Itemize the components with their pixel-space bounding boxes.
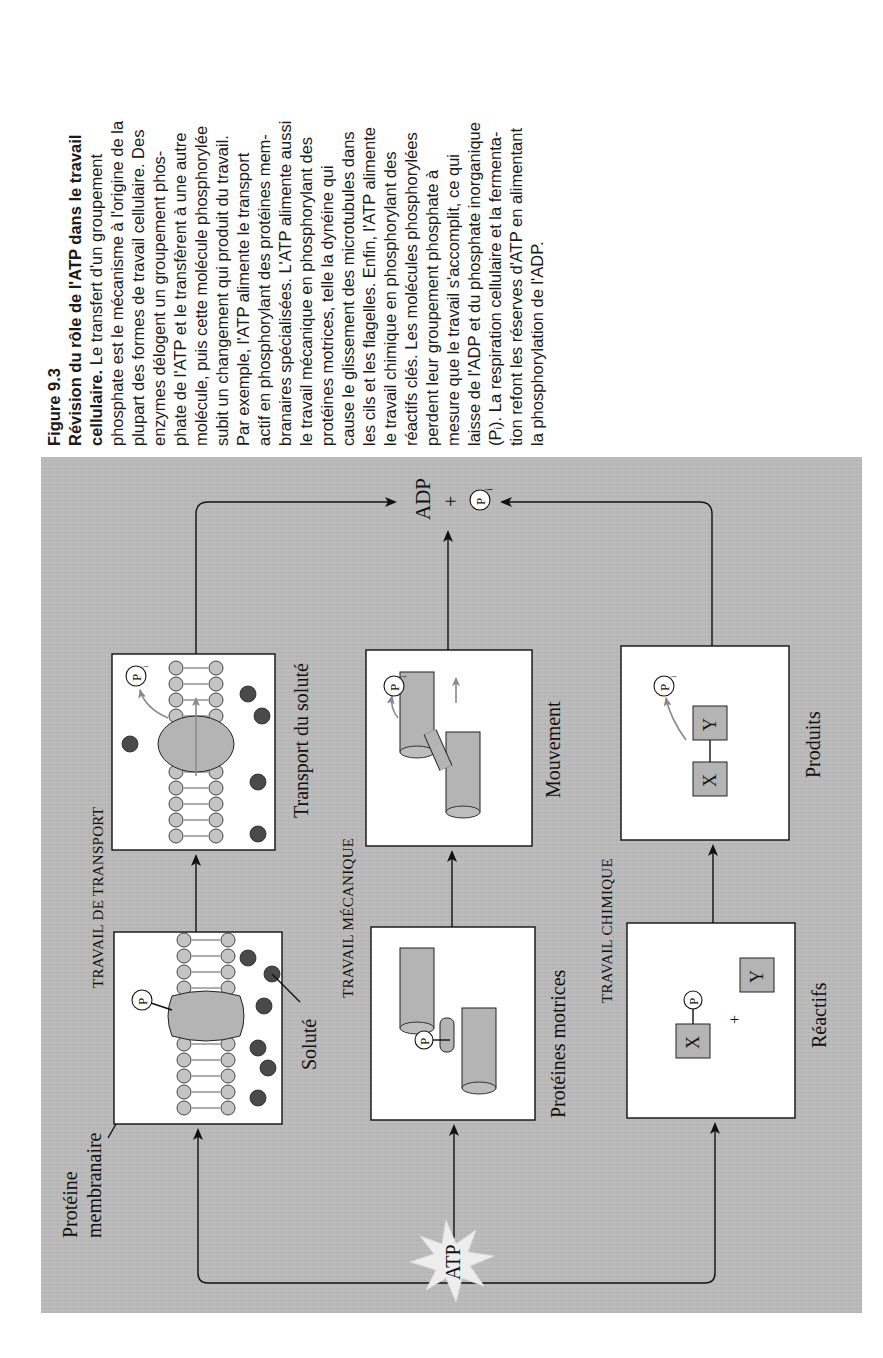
motor-proteins-label: Protéines motrices: [547, 969, 569, 1118]
svg-text:X: X: [700, 774, 720, 787]
svg-text:Y: Y: [747, 970, 767, 983]
caption-line: phate de l'ATP et le transfèrent à une a…: [171, 133, 189, 447]
svg-text:+: +: [726, 1015, 743, 1024]
solute-label: Soluté: [298, 1019, 320, 1070]
membrane-protein-shape: [168, 991, 244, 1041]
caption-line: phosphate est le mécanisme à l'origine d…: [108, 120, 126, 446]
caption-line: laisse de l'ADP et du phosphate inorgani…: [465, 122, 483, 446]
box-membrane-protein: P: [114, 932, 300, 1124]
pi-subscript: i: [483, 488, 494, 491]
svg-text:X: X: [683, 1036, 703, 1049]
caption-line: le travail chimique en phosphorylant des: [381, 152, 399, 446]
caption-line: tion refont les réserves d'ATP en alimen…: [507, 128, 525, 446]
svg-text:P: P: [657, 684, 672, 691]
caption-line: plupart des formes de travail cellulaire…: [129, 130, 147, 446]
movement-label: Mouvement: [542, 701, 564, 798]
membrane-protein-label-line1: Protéine: [59, 1171, 81, 1238]
svg-text:P: P: [387, 684, 402, 691]
box-solute-transport: P i: [112, 654, 275, 850]
pi-label: P: [473, 498, 488, 505]
caption-line: branaires spécialisées. L'ATP alimente a…: [276, 121, 294, 446]
solute-transport-label: Transport du soluté: [290, 663, 313, 818]
caption-line: molécule, puis cette molécule phosphoryl…: [192, 126, 210, 446]
caption-line: mesure que le travail s'accomplit, ce qu…: [444, 154, 462, 446]
box-products: X Y P i: [621, 646, 789, 840]
svg-text:P: P: [129, 674, 144, 681]
adp-label: ADP: [411, 478, 435, 520]
caption-line: la phosphorylation de l'ADP.: [528, 241, 546, 446]
phosphate-label: P: [135, 998, 150, 1005]
reactants-label: Réactifs: [808, 982, 830, 1048]
section-mechanical-label: TRAVAIL MÉCANIQUE: [340, 838, 356, 998]
svg-text:P: P: [417, 1038, 432, 1045]
section-chemical-label: TRAVAIL CHIMIQUE: [599, 858, 615, 1003]
box-motor-proteins: P: [371, 927, 535, 1120]
box-reactants: X P Y +: [627, 923, 795, 1118]
caption-line: réactifs clés. Les molécules phosphorylé…: [402, 132, 420, 446]
diagram-panel: TRAVAIL DE TRANSPORT TRAVAIL MÉCANIQUE T…: [41, 457, 862, 1313]
caption-line: le travail mécanique en phosphorylant de…: [297, 137, 315, 446]
caption-line: les cils et les flagelles. Enfin, l'ATP …: [360, 127, 378, 446]
caption-title-line1: Révision du rôle de l'ATP dans le travai…: [66, 135, 84, 446]
caption-line: protéines motrices, telle la dynéine qui: [318, 165, 336, 446]
caption-line: enzymes délogent un groupement phos-: [150, 151, 168, 446]
caption-title-line2-group: cellulaire. Le transfert d'un groupement: [87, 153, 105, 446]
caption-line: actif en phosphorylant des protéines mem…: [255, 134, 273, 446]
plus-sign: +: [440, 496, 462, 507]
caption-line: Par exemple, l'ATP alimente le transport: [234, 152, 252, 446]
caption-line: cause le glissement des microtubules dan…: [339, 131, 357, 446]
membrane-protein-label-line2: membranaire: [83, 1132, 105, 1238]
section-transport-label: TRAVAIL DE TRANSPORT: [90, 807, 106, 988]
svg-text:Y: Y: [700, 718, 720, 731]
figure-page: TRAVAIL DE TRANSPORT TRAVAIL MÉCANIQUE T…: [0, 0, 883, 1358]
svg-text:P: P: [686, 998, 701, 1005]
products-label: Produits: [802, 711, 824, 778]
box-movement: P i: [366, 650, 532, 846]
caption-line: (Pᵢ). La respiration cellulaire et la fe…: [486, 132, 504, 446]
figure-caption: Figure 9.3 Révision du rôle de l'ATP dan…: [45, 120, 546, 446]
figure-number: Figure 9.3: [45, 368, 63, 446]
caption-line: subit un changement qui produit du trava…: [213, 135, 231, 446]
caption-line: perdent leur groupement phosphate à: [423, 169, 441, 446]
atp-label: ATP: [442, 1244, 464, 1280]
